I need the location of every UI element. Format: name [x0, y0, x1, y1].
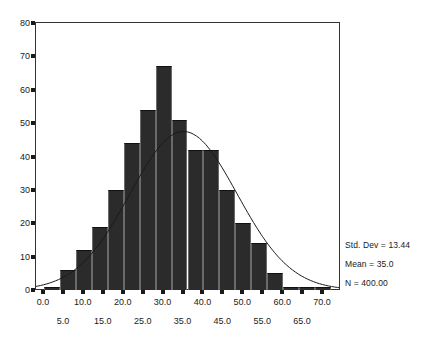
x-axis-tick-mark	[200, 290, 204, 294]
y-axis-tick-mark	[31, 255, 35, 259]
histogram-bar	[219, 190, 235, 290]
histogram-bar	[140, 110, 156, 290]
histogram-bar	[156, 66, 172, 290]
x-axis-tick-mark	[121, 290, 125, 294]
y-axis-tick-mark	[31, 21, 35, 25]
x-axis-tick-label: 25.0	[123, 316, 163, 326]
y-axis-tick: 10	[0, 252, 35, 262]
histogram-bar	[203, 150, 219, 290]
statistics-legend: Std. Dev = 13.44 Mean = 35.0 N = 400.00	[345, 236, 434, 293]
x-axis-tick-mark	[81, 290, 85, 294]
x-axis: 0.010.020.030.040.050.060.070.05.015.025…	[35, 290, 340, 343]
x-axis-tick-label: 10.0	[63, 297, 103, 307]
x-axis-tick-mark	[280, 290, 284, 294]
x-axis-tick-mark	[300, 290, 304, 294]
y-axis-tick: 20	[0, 218, 35, 228]
histogram-bar	[76, 250, 92, 290]
x-axis-tick-label: 55.0	[242, 316, 282, 326]
histogram-bars	[36, 23, 339, 290]
x-axis-tick-label: 0.0	[23, 297, 63, 307]
y-axis-tick: 60	[0, 85, 35, 95]
x-axis-tick-label: 60.0	[262, 297, 302, 307]
x-axis-tick-label: 35.0	[163, 316, 203, 326]
y-axis-tick-mark	[31, 221, 35, 225]
histogram-bar	[251, 243, 267, 290]
x-axis-tick-mark	[61, 290, 65, 294]
y-axis-tick: 80	[0, 18, 35, 28]
histogram-bar	[92, 227, 108, 290]
y-axis-tick: 40	[0, 152, 35, 162]
x-axis-tick-label: 70.0	[302, 297, 342, 307]
x-axis-tick-mark	[161, 290, 165, 294]
x-axis-tick-label: 5.0	[43, 316, 83, 326]
histogram-bar	[172, 120, 188, 290]
histogram-bar	[60, 270, 76, 290]
y-axis-tick-mark	[31, 155, 35, 159]
y-axis-tick: 50	[0, 118, 35, 128]
x-axis-tick-label: 65.0	[282, 316, 322, 326]
y-axis-tick-mark	[31, 121, 35, 125]
y-axis-tick-mark	[31, 54, 35, 58]
histogram-bar	[267, 273, 283, 290]
y-axis-tick: 70	[0, 51, 35, 61]
mean-label: Mean = 35.0	[345, 255, 434, 274]
n-label: N = 400.00	[345, 274, 434, 293]
x-axis-tick-mark	[240, 290, 244, 294]
x-axis-tick-mark	[220, 290, 224, 294]
histogram-bar	[235, 223, 251, 290]
x-axis-tick-mark	[320, 290, 324, 294]
x-axis-tick-mark	[260, 290, 264, 294]
x-axis-tick-mark	[141, 290, 145, 294]
x-axis-tick-label: 15.0	[83, 316, 123, 326]
histogram-figure: 01020304050607080 0.010.020.030.040.050.…	[0, 0, 434, 343]
std-dev-label: Std. Dev = 13.44	[345, 236, 434, 255]
y-axis-tick: 30	[0, 185, 35, 195]
x-axis-tick-label: 20.0	[103, 297, 143, 307]
x-axis-tick-label: 45.0	[202, 316, 242, 326]
histogram-bar	[124, 143, 140, 290]
x-axis-tick-mark	[101, 290, 105, 294]
y-axis-tick-mark	[31, 188, 35, 192]
x-axis-tick-mark	[181, 290, 185, 294]
histogram-bar	[188, 150, 204, 290]
x-axis-tick-label: 40.0	[182, 297, 222, 307]
y-axis: 01020304050607080	[0, 0, 35, 290]
histogram-bar	[108, 190, 124, 290]
x-axis-tick-mark	[41, 290, 45, 294]
x-axis-tick-label: 50.0	[222, 297, 262, 307]
x-axis-tick-label: 30.0	[143, 297, 183, 307]
y-axis-tick-mark	[31, 88, 35, 92]
y-axis-tick: 0	[0, 285, 35, 295]
